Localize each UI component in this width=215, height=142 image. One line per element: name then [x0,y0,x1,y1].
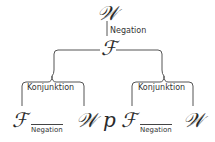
derivation-tree-diagram: 𝒲 Negation ℱ Konjunktion Konjunktion ℱ N… [0,0,215,142]
root-negation-label: Negation [110,27,146,35]
left-w-symbol: 𝒲 [76,110,97,130]
left-branch-line [52,50,100,76]
root-w-symbol: 𝒲 [97,3,118,23]
right-konjunktion-label: Konjunktion [138,84,185,92]
center-p-symbol: p [103,110,116,130]
right-w-symbol: 𝒲 [183,110,204,130]
left-f-symbol: ℱ [12,110,28,130]
right-f-symbol: ℱ [121,110,137,130]
right-branch-line [116,50,164,76]
left-konjunktion-label: Konjunktion [27,84,74,92]
mid-f-symbol: ℱ [101,38,117,58]
right-negation-relation: Negation [140,124,172,134]
left-negation-relation: Negation [31,124,63,134]
